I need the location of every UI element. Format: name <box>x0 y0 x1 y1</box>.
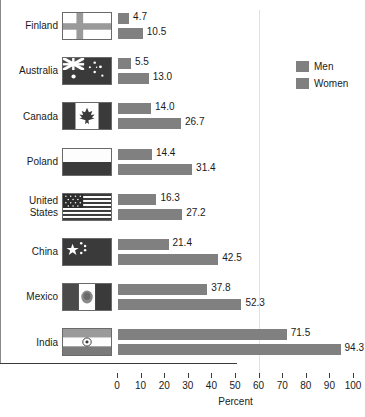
y-axis-line <box>0 0 1 363</box>
x-tick <box>282 373 283 378</box>
bar-value-women: 27.2 <box>186 207 205 218</box>
flag-australia-icon <box>62 57 112 85</box>
x-tick-label: 60 <box>247 380 271 391</box>
gridline-60 <box>259 10 260 373</box>
x-tick-label: 70 <box>270 380 294 391</box>
bar-men <box>118 329 287 340</box>
x-axis-line <box>0 363 237 364</box>
bar-value-women: 94.3 <box>345 342 364 353</box>
country-label-china: China <box>0 246 58 258</box>
flag-finland-icon <box>62 12 112 40</box>
bar-women <box>118 209 182 220</box>
x-tick-label: 40 <box>199 380 223 391</box>
x-tick <box>188 373 189 378</box>
x-tick <box>259 373 260 378</box>
x-tick <box>141 373 142 378</box>
country-label-canada: Canada <box>0 111 58 123</box>
x-axis-title: Percent <box>117 396 354 407</box>
legend-swatch-men <box>296 61 309 72</box>
legend: Men Women <box>296 57 348 91</box>
bar-women <box>118 73 149 84</box>
bar-value-women: 13.0 <box>153 71 172 82</box>
bar-men <box>118 103 151 114</box>
x-tick <box>117 373 118 378</box>
bar-women <box>118 254 218 265</box>
bar-value-women: 42.5 <box>222 252 241 263</box>
legend-item-women: Women <box>296 74 348 88</box>
country-label-australia: Australia <box>0 65 58 77</box>
flag-canada-icon <box>62 102 112 130</box>
flag-india-icon <box>62 328 112 356</box>
flag-mexico-icon <box>62 283 112 311</box>
bar-value-women: 26.7 <box>185 116 204 127</box>
x-tick-label: 20 <box>152 380 176 391</box>
x-tick-label: 100 <box>341 380 365 391</box>
bar-value-men: 4.7 <box>133 11 147 22</box>
x-tick <box>306 373 307 378</box>
bar-women <box>118 299 241 310</box>
bar-value-men: 16.3 <box>160 192 179 203</box>
bar-men <box>118 149 152 160</box>
bar-value-women: 31.4 <box>196 162 215 173</box>
x-tick-label: 30 <box>176 380 200 391</box>
bar-value-men: 14.4 <box>156 147 175 158</box>
bar-value-men: 14.0 <box>155 101 174 112</box>
country-label-india: India <box>0 337 58 349</box>
bar-women <box>118 118 181 129</box>
legend-label-women: Women <box>314 78 348 89</box>
legend-label-men: Men <box>314 61 333 72</box>
x-tick <box>235 373 236 378</box>
bar-men <box>118 13 129 24</box>
flag-united-states-icon <box>62 193 112 221</box>
legend-swatch-women <box>296 78 309 89</box>
country-label-mexico: Mexico <box>0 291 58 303</box>
bar-value-women: 52.3 <box>245 297 264 308</box>
bar-women <box>118 344 341 355</box>
flag-china-icon <box>62 238 112 266</box>
country-label-poland: Poland <box>0 156 58 168</box>
x-tick-label: 80 <box>294 380 318 391</box>
bar-value-men: 21.4 <box>173 237 192 248</box>
country-label-united-states: United States <box>0 195 58 218</box>
legend-item-men: Men <box>296 57 348 71</box>
flag-poland-icon <box>62 148 112 176</box>
bar-value-men: 37.8 <box>211 282 230 293</box>
bar-women <box>118 164 192 175</box>
x-tick <box>164 373 165 378</box>
x-tick-label: 90 <box>317 380 341 391</box>
bar-women <box>118 28 143 39</box>
bar-value-men: 71.5 <box>291 327 310 338</box>
x-tick <box>329 373 330 378</box>
x-tick-label: 50 <box>223 380 247 391</box>
bar-men <box>118 239 169 250</box>
x-tick <box>211 373 212 378</box>
x-tick <box>353 373 354 378</box>
bar-value-women: 10.5 <box>147 26 166 37</box>
bar-men <box>118 284 207 295</box>
x-tick-label: 10 <box>129 380 153 391</box>
bar-men <box>118 194 156 205</box>
country-label-finland: Finland <box>0 20 58 32</box>
x-tick-label: 0 <box>105 380 129 391</box>
bar-men <box>118 58 131 69</box>
bar-value-men: 5.5 <box>135 56 149 67</box>
